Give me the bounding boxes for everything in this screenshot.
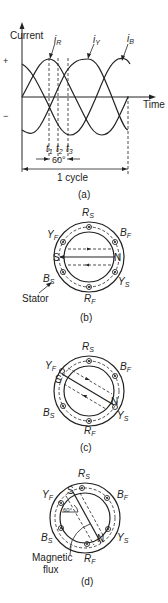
label-rf-b: RF bbox=[84, 293, 96, 305]
angle-60-label: 60° bbox=[52, 155, 66, 165]
pole-n-b: N bbox=[114, 252, 121, 263]
label-yf-b: YF bbox=[47, 229, 59, 241]
pole-s-d: S bbox=[67, 485, 74, 496]
legend-iY: iY bbox=[93, 34, 101, 46]
label-rs-d: RS bbox=[78, 468, 90, 480]
label-rs-c: RS bbox=[82, 341, 94, 353]
label-bs-c: BS bbox=[43, 407, 55, 419]
label-bf-b: BF bbox=[120, 227, 132, 239]
label-bs-d: BS bbox=[41, 532, 53, 544]
y-axis-label: Current bbox=[10, 30, 44, 41]
legend-iB: iB bbox=[127, 33, 134, 45]
panel-c-stator bbox=[54, 356, 124, 426]
caption-a: (a) bbox=[78, 189, 90, 200]
label-bf-c: BF bbox=[120, 361, 132, 373]
three-phase-rotating-field-diagram: Current Time + − iR iY iB t1 t2 t3 60° 1… bbox=[0, 0, 168, 603]
caption-b: (b) bbox=[80, 312, 92, 323]
caption-c: (c) bbox=[80, 442, 92, 453]
label-ys-c: YS bbox=[117, 410, 129, 422]
label-ys-d: YS bbox=[117, 532, 129, 544]
pole-n-c: N bbox=[111, 396, 118, 407]
pole-s-b: S bbox=[53, 252, 60, 263]
label-yf-d: YF bbox=[42, 489, 54, 501]
pole-s-c: S bbox=[55, 374, 62, 385]
flux-label-1: Magnetic bbox=[32, 552, 73, 563]
panel-a-waveforms bbox=[20, 22, 157, 175]
caption-d: (d) bbox=[81, 576, 93, 587]
label-ys-b: YS bbox=[118, 276, 130, 288]
label-yf-c: YF bbox=[45, 360, 57, 372]
legend-iR: iR bbox=[54, 34, 61, 46]
stator-label: Stator bbox=[22, 293, 49, 304]
cycle-label: 1 cycle bbox=[57, 172, 89, 183]
plus-sign: + bbox=[3, 56, 8, 66]
x-axis-label: Time bbox=[143, 99, 165, 110]
angle-60-d: 60° bbox=[63, 507, 73, 513]
time-t3: t3 bbox=[66, 143, 73, 155]
time-t2: t2 bbox=[56, 143, 63, 155]
flux-label-2: flux bbox=[43, 564, 59, 575]
label-rf-d: RF bbox=[84, 553, 96, 565]
label-bs-b: BS bbox=[43, 273, 55, 285]
label-bf-d: BF bbox=[117, 489, 129, 501]
label-rf-c: RF bbox=[84, 425, 96, 437]
pole-n-d: N bbox=[97, 533, 104, 544]
minus-sign: − bbox=[3, 111, 8, 121]
panel-d-stator bbox=[50, 483, 120, 555]
label-rs-b: RS bbox=[82, 207, 94, 219]
